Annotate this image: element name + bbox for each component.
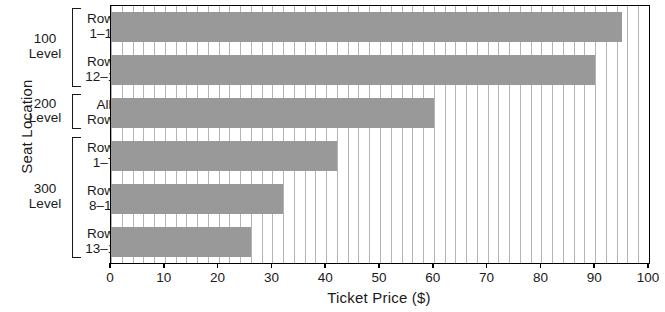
group-label-line1: 300 — [22, 182, 68, 197]
x-tick-mark — [647, 263, 649, 268]
plot-area — [110, 5, 650, 264]
x-tick-label: 10 — [144, 270, 184, 285]
group-label-200-level: 200 Level — [22, 97, 68, 126]
y-axis-title: Seat Location — [18, 57, 35, 197]
gridlines — [111, 6, 649, 263]
group-label-100-level: 100 Level — [22, 32, 68, 61]
x-tick-label: 90 — [574, 270, 614, 285]
group-label-line2: Level — [22, 47, 68, 62]
bar-rows-1-7 — [111, 141, 337, 171]
bar-chart: Seat Location 100 Level 200 Level 300 Le… — [0, 0, 665, 312]
x-tick-mark — [109, 263, 111, 268]
group-bracket-100-level — [72, 8, 81, 87]
bar-rows-12-19 — [111, 55, 595, 85]
x-tick-mark — [432, 263, 434, 268]
x-axis-title: Ticket Price ($) — [110, 289, 648, 306]
x-tick-mark — [163, 263, 165, 268]
x-tick-label: 40 — [305, 270, 345, 285]
plot-inner — [111, 6, 649, 263]
x-tick-label: 20 — [198, 270, 238, 285]
group-label-line1: 100 — [22, 32, 68, 47]
group-bracket-200-level — [72, 94, 81, 130]
x-tick-label: 50 — [359, 270, 399, 285]
group-label-line2: Level — [22, 111, 68, 126]
x-tick-mark — [324, 263, 326, 268]
x-tick-label: 100 — [628, 270, 665, 285]
x-tick-mark — [540, 263, 542, 268]
x-tick-mark — [271, 263, 273, 268]
x-tick-mark — [593, 263, 595, 268]
bar-rows-1-11 — [111, 12, 622, 42]
x-tick-label: 80 — [520, 270, 560, 285]
x-tick-mark — [217, 263, 219, 268]
x-tick-label: 0 — [90, 270, 130, 285]
group-label-300-level: 300 Level — [22, 182, 68, 211]
x-tick-label: 60 — [413, 270, 453, 285]
bar-all-rows — [111, 98, 434, 128]
group-bracket-300-level — [72, 137, 81, 259]
bar-rows-13-17 — [111, 227, 251, 257]
x-tick-label: 30 — [251, 270, 291, 285]
bar-rows-8-12 — [111, 184, 283, 214]
x-tick-mark — [486, 263, 488, 268]
group-label-line1: 200 — [22, 97, 68, 112]
x-tick-mark — [378, 263, 380, 268]
group-label-line2: Level — [22, 197, 68, 212]
x-tick-label: 70 — [467, 270, 507, 285]
